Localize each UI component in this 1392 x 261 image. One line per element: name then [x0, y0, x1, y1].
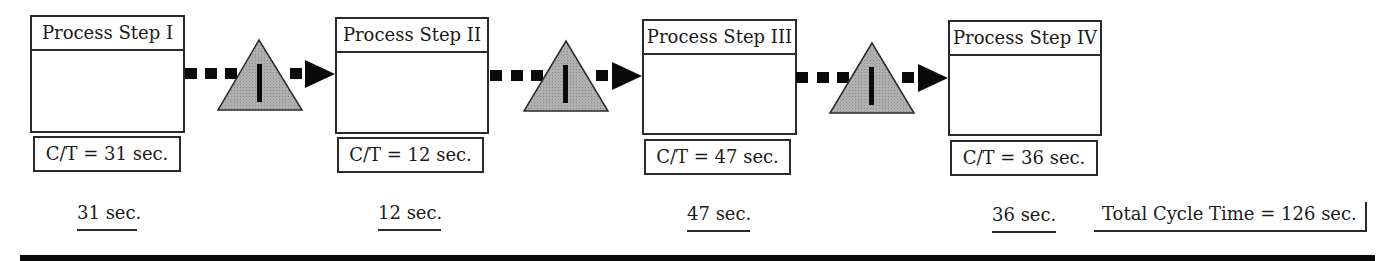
bottom-rule — [20, 255, 1375, 261]
total-cycle-time: Total Cycle Time = 126 sec. — [1094, 202, 1367, 232]
timeline-value: 31 sec. — [77, 201, 137, 231]
timeline-value: 12 sec. — [378, 201, 441, 231]
timeline-value: 47 sec. — [687, 202, 750, 232]
timeline-value: 36 sec. — [992, 203, 1056, 233]
